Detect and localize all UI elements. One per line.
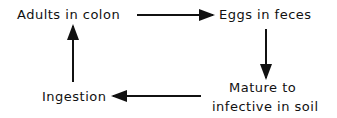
node-ingestion: Ingestion (42, 89, 107, 104)
node-mature-line2: infective in soil (212, 99, 319, 114)
node-adults-in-colon: Adults in colon (17, 7, 120, 22)
node-mature-line1: Mature to (229, 80, 296, 95)
node-eggs-in-feces: Eggs in feces (219, 7, 312, 22)
